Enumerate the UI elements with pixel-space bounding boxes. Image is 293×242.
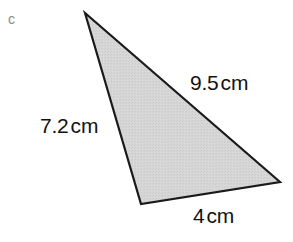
side-label-hypotenuse-value: 9.5 [190,71,219,94]
side-label-left-unit: cm [71,114,99,137]
side-label-left-value: 7.2 [40,114,69,137]
side-label-base-unit: cm [206,204,234,227]
triangle-shape [85,13,280,204]
side-label-base: 4cm [193,205,234,226]
figure-container: c 9.5cm 7.2cm 4cm [0,0,293,242]
side-label-left: 7.2cm [40,115,98,136]
side-label-hypotenuse: 9.5cm [190,72,248,93]
side-label-base-value: 4 [193,204,204,227]
side-label-hypotenuse-unit: cm [221,71,249,94]
